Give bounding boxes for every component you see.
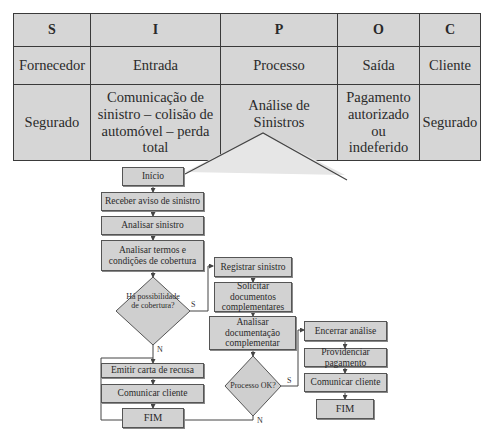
step-analisar-documentacao: Analisar documentação complementar (209, 316, 296, 350)
yes-label-1: S (191, 300, 195, 309)
step-emitir-recusa: Emitir carta de recusa (101, 363, 204, 378)
step-comunicar-cliente-1: Comunicar cliente (101, 384, 204, 403)
no-label-2: N (257, 416, 263, 425)
step-receber-aviso: Receber aviso de sinistro (101, 192, 204, 211)
step-solicitar-documentos: Solicitar documentos complementares (214, 282, 292, 312)
step-registrar-sinistro: Registrar sinistro (214, 257, 292, 277)
yes-label-2: S (287, 376, 291, 385)
step-analisar-sinistro: Analisar sinistro (101, 216, 204, 235)
step-fim-1: FIM (122, 408, 184, 428)
step-providenciar-pagamento: Providenciar pagamento (304, 348, 387, 367)
step-comunicar-cliente-2: Comunicar cliente (304, 373, 387, 392)
step-encerrar-analise: Encerrar análise (304, 321, 387, 341)
decision-processo-ok: Processo OK? (226, 382, 280, 391)
step-inicio: Início (122, 167, 184, 186)
step-analisar-termos: Analisar termos e condições de cobertura (101, 240, 204, 271)
decision-cobertura: Há possibilidade de cobertura? (124, 293, 182, 311)
no-label-1: N (157, 345, 163, 354)
flow-connectors (0, 0, 486, 432)
step-fim-2: FIM (316, 399, 374, 419)
